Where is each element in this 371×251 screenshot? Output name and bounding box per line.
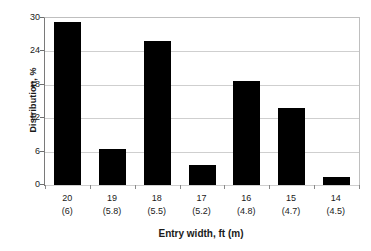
- x-axis-tick-label: 15(4.7): [269, 192, 314, 218]
- bar-slot: [45, 18, 90, 185]
- x-axis-tick-label-ft: 17: [197, 193, 207, 203]
- x-axis-tick-label-ft: 19: [107, 193, 117, 203]
- x-axis-tick-mark: [269, 185, 270, 189]
- y-axis-tick-label: 24: [6, 45, 40, 55]
- bar-slot: [314, 18, 359, 185]
- x-axis-title: Entry width, ft (m): [44, 228, 358, 239]
- bar[interactable]: [189, 165, 216, 185]
- x-axis-tick-label-ft: 16: [241, 193, 251, 203]
- x-axis-tick-label-m: (6): [45, 205, 90, 218]
- bar[interactable]: [54, 22, 81, 185]
- x-axis-tick-label: 19(5.8): [90, 192, 135, 218]
- y-axis-tick-group: 0612182430: [0, 17, 40, 184]
- bar-slot: [224, 18, 269, 185]
- bar-chart: Distribution, % 0612182430 20(6)19(5.8)1…: [0, 0, 371, 251]
- x-axis-tick-mark: [224, 185, 225, 189]
- x-axis-tick-label-m: (5.5): [134, 205, 179, 218]
- y-axis-tick-label: 18: [6, 79, 40, 89]
- x-axis-tick-label: 18(5.5): [134, 192, 179, 218]
- x-axis-tick-label: 17(5.2): [179, 192, 224, 218]
- x-axis-tick-label: 16(4.8): [224, 192, 269, 218]
- x-axis-tick-label-ft: 18: [152, 193, 162, 203]
- x-axis-tick-mark: [314, 185, 315, 189]
- bar-slot: [180, 18, 225, 185]
- x-axis-tick-label: 20(6): [45, 192, 90, 218]
- x-axis-labels: 20(6)19(5.8)18(5.5)17(5.2)16(4.8)15(4.7)…: [45, 192, 358, 218]
- x-axis-tick-label-m: (4.5): [313, 205, 358, 218]
- y-axis-tick-label: 30: [6, 12, 40, 22]
- bar[interactable]: [278, 108, 305, 185]
- bar[interactable]: [99, 149, 126, 185]
- x-axis-tick-mark: [135, 185, 136, 189]
- x-axis-tick-label-m: (5.2): [179, 205, 224, 218]
- x-axis-tick-label-ft: 20: [62, 193, 72, 203]
- x-axis-tick-mark: [45, 185, 46, 189]
- x-axis-tick-mark: [180, 185, 181, 189]
- bar-slot: [269, 18, 314, 185]
- bar[interactable]: [323, 177, 350, 185]
- x-axis-tick-label-m: (4.8): [224, 205, 269, 218]
- bar[interactable]: [233, 81, 260, 185]
- x-axis-tick-mark: [359, 185, 360, 189]
- y-axis-tick-label: 0: [6, 179, 40, 189]
- x-axis-tick-label-m: (5.8): [90, 205, 135, 218]
- bar[interactable]: [144, 41, 171, 185]
- bar-slot: [135, 18, 180, 185]
- x-axis-tick-label-m: (4.7): [269, 205, 314, 218]
- x-axis-tick-label-ft: 14: [331, 193, 341, 203]
- x-axis-tick-label: 14(4.5): [313, 192, 358, 218]
- x-axis-tick-mark: [90, 185, 91, 189]
- bars-layer: [45, 18, 359, 185]
- x-axis-tick-group: [45, 185, 358, 190]
- y-axis-tick-label: 6: [6, 146, 40, 156]
- bar-slot: [90, 18, 135, 185]
- plot-area: [44, 17, 360, 186]
- y-axis-tick-label: 12: [6, 112, 40, 122]
- x-axis-tick-label-ft: 15: [286, 193, 296, 203]
